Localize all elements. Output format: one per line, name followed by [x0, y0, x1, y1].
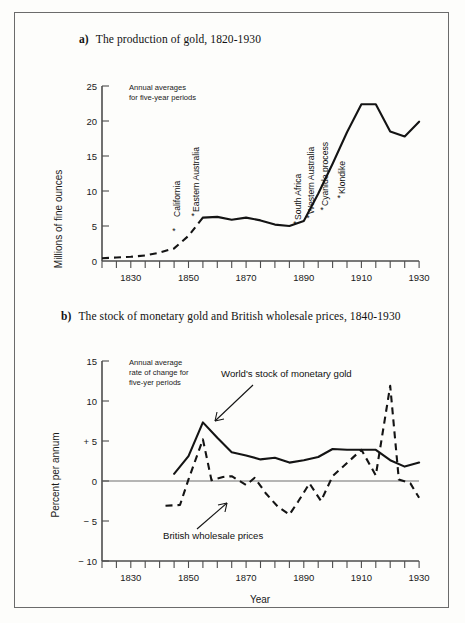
- panel-a-svg: Millions of fine ounces 25 20 15 10 5: [15, 59, 435, 304]
- panel-a-ytick-5: 5: [92, 221, 97, 232]
- panel-a-y-ticks: 25 20 15 10 5 0: [86, 81, 109, 267]
- panel-b-series-prices: [166, 386, 420, 515]
- annotation-klondike: Klondike: [337, 161, 347, 194]
- panel-a-note-line-1: Annual averages: [129, 83, 186, 92]
- annotation-eastern-australia: Eastern Australia: [191, 147, 201, 212]
- panel-b-prices-leader: [197, 503, 227, 529]
- panel-a-xtick-1930: 1930: [409, 272, 430, 283]
- panel-a-ytick-0: 0: [92, 256, 97, 267]
- panel-b-xtick-1930: 1930: [409, 572, 430, 583]
- panel-b-ytick-plus5: + 5: [84, 436, 97, 447]
- panel-b-note: Annual average rate of change for five-y…: [129, 358, 189, 387]
- panel-a-xtick-1910: 1910: [351, 272, 372, 283]
- panel-b-gold-label-text: World's stock of monetary gold: [221, 368, 352, 379]
- panel-b-note-line-1: Annual average: [129, 358, 182, 367]
- panel-a-title-text: The production of gold, 1820-1930: [96, 33, 261, 45]
- panel-b-note-line-3: five-yer periods: [129, 378, 181, 387]
- panel-b-gold-leader: [215, 385, 253, 421]
- panel-b-svg: Percent per annum 15 10 + 5 0 − 5: [15, 335, 435, 610]
- panel-b-xtick-1850: 1850: [178, 572, 199, 583]
- panel-b-title: b)The stock of monetary gold and British…: [61, 310, 401, 322]
- annotation-south-africa: South Africa: [293, 173, 303, 220]
- panel-b-label-gold: World's stock of monetary gold: [215, 368, 352, 421]
- panel-a-note-line-2: for five-year periods: [129, 93, 196, 102]
- panel-a-ytick-20: 20: [86, 116, 97, 127]
- panel-a-xtick-1890: 1890: [293, 272, 314, 283]
- panel-b-label: b): [61, 310, 71, 322]
- figure-page: a)The production of gold, 1820-1930 Mill…: [0, 0, 465, 623]
- panel-a-xtick-1850: 1850: [178, 272, 199, 283]
- panel-a-chart: Millions of fine ounces 25 20 15 10 5: [15, 59, 435, 304]
- panel-a-label: a): [79, 33, 89, 45]
- annotation-western-australia: Western Australia: [306, 147, 316, 214]
- panel-a-x-tick-labels: 1830 1850 1870 1890 1910 1930: [120, 272, 429, 283]
- panel-b-xtick-1870: 1870: [236, 572, 257, 583]
- annotation-california-marker: *: [172, 226, 176, 236]
- figure-frame: a)The production of gold, 1820-1930 Mill…: [14, 12, 449, 608]
- panel-b-chart: Percent per annum 15 10 + 5 0 − 5: [15, 335, 435, 610]
- panel-b-xtick-1910: 1910: [351, 572, 372, 583]
- panel-b-label-prices: British wholesale prices: [163, 503, 263, 541]
- panel-b-ytick-minus5: − 5: [84, 516, 97, 527]
- panel-b-xtick-1830: 1830: [120, 572, 141, 583]
- panel-b-x-ticks: [102, 561, 419, 568]
- panel-b-prices-label-text: British wholesale prices: [163, 530, 263, 541]
- panel-a-note: Annual averages for five-year periods: [129, 83, 196, 102]
- panel-a-x-ticks: [102, 261, 419, 268]
- panel-b-x-tick-labels: 1830 1850 1870 1890 1910 1930: [120, 572, 429, 583]
- panel-a-ytick-10: 10: [86, 186, 97, 197]
- panel-a-series-dashed: [102, 218, 203, 259]
- panel-b-ytick-10: 10: [86, 396, 97, 407]
- panel-a-ytick-15: 15: [86, 151, 97, 162]
- panel-a-title: a)The production of gold, 1820-1930: [79, 33, 261, 45]
- panel-b-xlabel: Year: [250, 594, 271, 605]
- panel-b-ylabel: Percent per annum: [50, 432, 61, 517]
- panel-a-xtick-1870: 1870: [236, 272, 257, 283]
- annotation-cyanide-process: Cyanide process: [320, 142, 330, 206]
- panel-b-note-line-2: rate of change for: [129, 368, 189, 377]
- panel-b-ytick-minus10: − 10: [78, 556, 97, 567]
- panel-a-xtick-1830: 1830: [120, 272, 141, 283]
- panel-b-ytick-0: 0: [92, 476, 97, 487]
- panel-b-y-ticks: 15 10 + 5 0 − 5 − 10: [78, 356, 109, 567]
- panel-a-ylabel: Millions of fine ounces: [53, 170, 64, 268]
- panel-b-xtick-1890: 1890: [293, 572, 314, 583]
- panel-a-ytick-25: 25: [86, 81, 97, 92]
- panel-b-ytick-15: 15: [86, 356, 97, 367]
- annotation-california: California: [172, 180, 182, 217]
- panel-b-title-text: The stock of monetary gold and British w…: [78, 310, 400, 322]
